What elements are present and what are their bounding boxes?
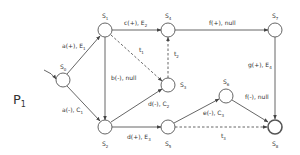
node-label: S8 (272, 140, 279, 149)
state-node-s3 (161, 78, 175, 92)
edge-s0-s2 (67, 86, 100, 121)
process-label: P1 (13, 92, 26, 109)
edge-label: f(-), null (245, 93, 269, 100)
edge-label: f(+), null (209, 19, 236, 26)
edge-label: g(+), E4 (248, 61, 272, 70)
node-label: S0 (60, 63, 67, 72)
edge-label: e(-), C3 (203, 109, 225, 118)
state-node-s6 (219, 89, 233, 103)
edge-label: t3 (221, 132, 226, 141)
edge-label: d(+), E3 (127, 133, 151, 142)
state-node-s7 (268, 23, 282, 37)
edge-s6-s8 (232, 100, 268, 122)
state-node-s2 (98, 120, 112, 134)
edge-label: t1 (139, 46, 144, 55)
node-label: S3 (180, 81, 187, 90)
state-node-s5 (161, 120, 175, 134)
node-label: S5 (165, 140, 172, 149)
edge-label: a(-), C1 (62, 106, 84, 115)
edge-label: c(+), E2 (124, 19, 148, 28)
node-label: S7 (272, 12, 279, 21)
nodes (56, 23, 282, 134)
state-node-s0 (56, 73, 70, 87)
edge-label: b(-), null (111, 74, 137, 81)
node-label: S1 (102, 12, 109, 21)
edge-label: t2 (174, 50, 179, 59)
state-node-s4 (161, 23, 175, 37)
edge-label: d(-), C2 (148, 100, 170, 109)
state-diagram: P1 a(+), E1 a(-), C1 c(+), E2 b(-), null… (0, 0, 300, 155)
node-label: S2 (102, 140, 109, 149)
node-label: S4 (165, 12, 172, 21)
state-node-s1 (98, 23, 112, 37)
edge-label: a(+), E1 (62, 42, 86, 51)
initial-arrow (44, 70, 56, 79)
node-label: S6 (223, 78, 230, 87)
state-node-s8-final (268, 120, 282, 134)
